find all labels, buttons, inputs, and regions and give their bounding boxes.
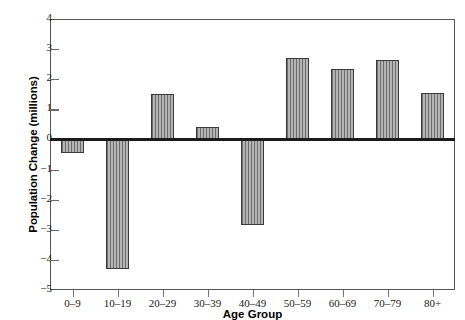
y-tick-label: −4 [12, 252, 52, 264]
y-tick-label: 1 [12, 101, 52, 113]
y-tick-label: −1 [12, 162, 52, 174]
y-tick-label: −3 [12, 222, 52, 234]
x-tick-mark [73, 290, 74, 297]
x-axis-title: Age Group [50, 308, 455, 320]
bar [376, 60, 399, 140]
population-change-bar-chart: Population Change (millions) 43210−1−2−3… [0, 0, 465, 320]
y-tick-label: 3 [12, 41, 52, 53]
y-tick-label: 4 [12, 11, 52, 23]
bar [331, 69, 354, 140]
bar [151, 94, 174, 139]
zero-baseline [50, 138, 455, 140]
y-tick-label: −5 [12, 282, 52, 294]
bars-layer [50, 19, 455, 290]
x-tick-mark [433, 290, 434, 297]
y-tick-label: 2 [12, 71, 52, 83]
x-tick-mark [388, 290, 389, 297]
x-tick-mark [253, 290, 254, 297]
bar [241, 139, 264, 225]
y-tick-label: 0 [12, 131, 52, 143]
x-tick-mark [298, 290, 299, 297]
y-tick-label: −2 [12, 192, 52, 204]
bar [286, 58, 309, 139]
bar [106, 139, 129, 268]
bar [61, 139, 84, 153]
x-tick-mark [163, 290, 164, 297]
x-tick-mark [343, 290, 344, 297]
y-axis-title: Population Change (millions) [22, 19, 44, 290]
x-tick-mark [118, 290, 119, 297]
bar [421, 93, 444, 140]
x-tick-mark [208, 290, 209, 297]
